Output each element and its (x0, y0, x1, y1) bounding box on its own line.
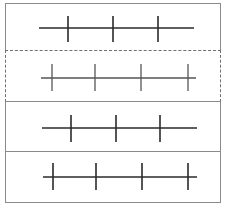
panel-4 (5, 151, 221, 203)
number-line-4 (6, 152, 220, 202)
number-line-3 (6, 102, 220, 151)
panel-3 (5, 101, 221, 152)
diagram-frame (5, 3, 223, 203)
number-line-2 (6, 51, 220, 101)
panel-1 (5, 3, 221, 51)
number-line-1 (6, 4, 220, 50)
panel-2 (5, 50, 221, 102)
